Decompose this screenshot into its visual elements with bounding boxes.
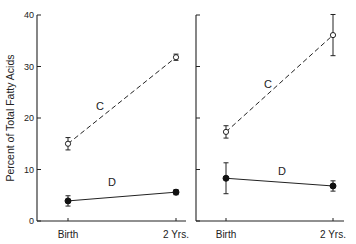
filled-circle-marker (330, 183, 336, 189)
open-circle-marker (223, 129, 228, 134)
filled-circle-marker (173, 189, 179, 195)
x-tick-label: 2 Yrs. (320, 229, 346, 240)
right-series-d-line (226, 178, 333, 186)
right-series-c-line (226, 35, 333, 132)
left-series-label-c: C (96, 100, 104, 112)
open-circle-marker (173, 55, 178, 60)
left-series-label-d: D (108, 176, 116, 188)
y-axis-label: Percent of Total Fatty Acids (4, 54, 16, 181)
filled-circle-marker (223, 175, 229, 181)
y-tick-label: 20 (24, 113, 34, 123)
x-tick-label: Birth (216, 229, 237, 240)
open-circle-marker (65, 141, 70, 146)
filled-circle-marker (65, 198, 71, 204)
x-tick-label: 2 Yrs. (163, 229, 189, 240)
y-tick-label: 40 (24, 10, 34, 20)
y-tick-label: 0 (29, 216, 34, 226)
right-series-label-c: C (264, 78, 272, 90)
fatty-acids-chart: Percent of Total Fatty Acids010203040Bir… (0, 0, 356, 244)
left-series-c-line (68, 57, 176, 144)
y-tick-label: 30 (24, 62, 34, 72)
open-circle-marker (330, 32, 335, 37)
left-series-d-line (68, 192, 176, 201)
right-series-label-d: D (278, 165, 286, 177)
y-tick-label: 10 (24, 165, 34, 175)
x-tick-label: Birth (58, 229, 79, 240)
